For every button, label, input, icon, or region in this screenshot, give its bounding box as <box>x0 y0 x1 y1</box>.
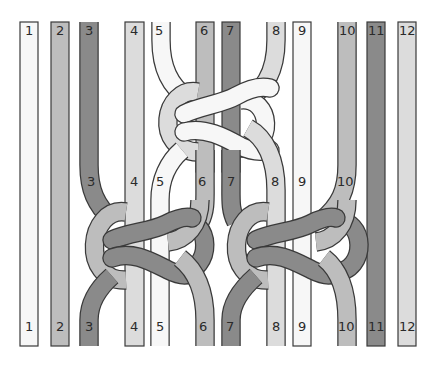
cord-3-lower <box>89 276 112 346</box>
cord-10-upper <box>322 22 347 220</box>
label-mid-4: 4 <box>130 174 138 189</box>
label-bottom-6: 6 <box>199 319 207 334</box>
label-bottom-3: 3 <box>85 319 93 334</box>
label-mid-7: 7 <box>227 174 235 189</box>
cord-7-lower <box>231 276 256 346</box>
label-mid-8: 8 <box>271 174 279 189</box>
label-top-11: 11 <box>368 23 385 38</box>
macrame-diagram: .w { fill: #f7f7f7; } .l { fill: #dcdcdc… <box>0 0 438 366</box>
label-bottom-7: 7 <box>226 319 234 334</box>
label-top-6: 6 <box>200 23 208 38</box>
label-mid-6: 6 <box>198 174 206 189</box>
label-top-4: 4 <box>130 23 138 38</box>
label-top-12: 12 <box>399 23 416 38</box>
label-top-9: 9 <box>298 23 306 38</box>
label-top-3: 3 <box>85 23 93 38</box>
label-mid-5: 5 <box>156 174 164 189</box>
label-bottom-11: 11 <box>368 319 385 334</box>
label-top-10: 10 <box>339 23 356 38</box>
label-bottom-4: 4 <box>130 319 138 334</box>
cord-2 <box>51 22 69 346</box>
cord-12 <box>398 22 416 346</box>
label-bottom-9: 9 <box>298 319 306 334</box>
label-bottom-8: 8 <box>272 319 280 334</box>
label-top-8: 8 <box>272 23 280 38</box>
label-mid-9: 9 <box>298 174 306 189</box>
cord-1 <box>20 22 38 346</box>
label-top-5: 5 <box>155 23 163 38</box>
label-bottom-12: 12 <box>399 319 416 334</box>
label-top-7: 7 <box>226 23 234 38</box>
cord-11 <box>367 22 385 346</box>
label-top-1: 1 <box>25 23 33 38</box>
label-mid-3: 3 <box>87 174 95 189</box>
label-bottom-10: 10 <box>338 319 355 334</box>
label-bottom-5: 5 <box>156 319 164 334</box>
cord-3-upper <box>89 22 112 220</box>
label-bottom-2: 2 <box>56 319 64 334</box>
label-bottom-1: 1 <box>25 319 33 334</box>
label-mid-10: 10 <box>337 174 354 189</box>
label-top-2: 2 <box>56 23 64 38</box>
